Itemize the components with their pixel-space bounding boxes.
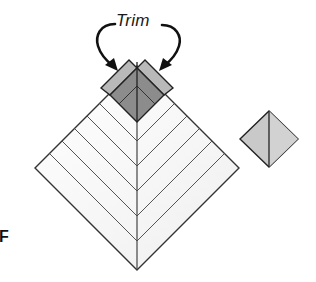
side-diamond-right-half: [269, 111, 298, 167]
diagram-canvas: [0, 0, 316, 282]
figure-letter-label: F: [0, 228, 9, 246]
side-diamond: [240, 111, 298, 167]
trim-diagram: Trim F: [0, 0, 316, 282]
trim-label: Trim: [116, 11, 150, 31]
